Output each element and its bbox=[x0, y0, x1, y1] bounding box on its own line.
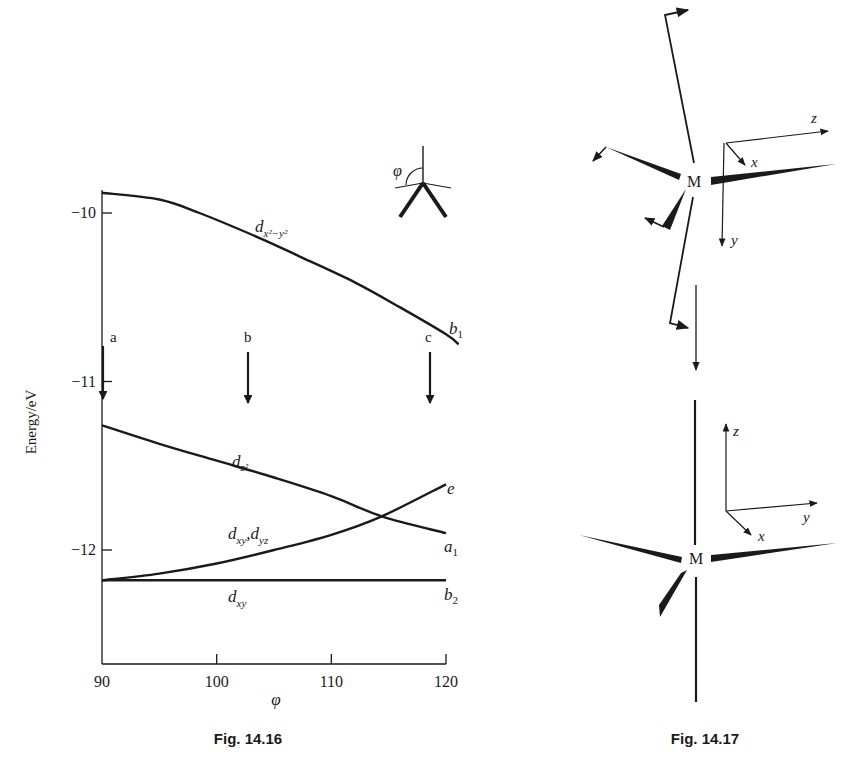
upper-axes bbox=[722, 131, 828, 246]
upper-right-wedge bbox=[711, 164, 836, 185]
label-dxy: dxy bbox=[228, 587, 246, 609]
upper-y-axis-icon bbox=[722, 143, 724, 246]
lower-lower-left-wedge bbox=[659, 570, 687, 617]
lower-metal-label: M bbox=[689, 550, 703, 567]
series-e bbox=[102, 484, 446, 580]
lower-structure: M z y x bbox=[579, 400, 837, 702]
geometry-arrows: a b c bbox=[103, 329, 432, 403]
energy-chart: −10−11−12 90100110120 Energy/eV φ dx²−y²… bbox=[23, 146, 463, 747]
label-dz2: dz² bbox=[232, 452, 249, 473]
y-axis-label: Energy/eV bbox=[23, 389, 39, 454]
upper-z-axis-icon bbox=[726, 131, 828, 143]
label-dxz-dyz: dxy,dyz bbox=[228, 524, 269, 546]
chart-series bbox=[102, 193, 459, 581]
upper-lower-left-arrow-icon bbox=[645, 218, 664, 227]
figure-caption-14-16: Fig. 14.16 bbox=[214, 730, 282, 747]
arrow-label-a: a bbox=[110, 329, 117, 345]
arrow-label-c: c bbox=[425, 329, 432, 345]
upper-left-arrow-icon bbox=[593, 147, 606, 161]
upper-y-label: y bbox=[729, 232, 738, 248]
lower-y-label: y bbox=[801, 509, 810, 525]
y-tick-label: −12 bbox=[71, 541, 96, 558]
upper-metal-label: M bbox=[687, 173, 701, 190]
chart-axes bbox=[102, 190, 446, 664]
y-tick-label: −11 bbox=[72, 373, 96, 390]
inset-phi-label: φ bbox=[393, 162, 402, 180]
upper-structure: M z x y bbox=[593, 10, 836, 328]
end-label-e: e bbox=[447, 479, 455, 498]
inset-geometry-icon: φ bbox=[393, 146, 451, 217]
upper-top-ligand-arrow-icon bbox=[665, 10, 694, 163]
end-label-a1: a1 bbox=[444, 537, 458, 558]
x-tick-label: 110 bbox=[320, 673, 343, 690]
x-tick-label: 120 bbox=[434, 673, 458, 690]
molecular-geometry-diagram: M z x y M z y bbox=[579, 10, 837, 747]
lower-left-wedge bbox=[579, 535, 682, 563]
lower-z-label: z bbox=[732, 423, 739, 439]
series-b1 bbox=[102, 193, 459, 345]
end-label-b2: b2 bbox=[444, 585, 458, 606]
x-ticks: 90100110120 bbox=[94, 654, 458, 690]
end-label-b1: b1 bbox=[449, 319, 463, 340]
y-tick-label: −10 bbox=[71, 204, 96, 221]
arrow-label-b: b bbox=[244, 329, 252, 345]
upper-x-label: x bbox=[750, 154, 758, 170]
lower-x-label: x bbox=[757, 528, 765, 544]
x-axis-label: φ bbox=[271, 690, 280, 709]
figure-canvas: −10−11−12 90100110120 Energy/eV φ dx²−y²… bbox=[0, 0, 865, 772]
x-tick-label: 90 bbox=[94, 673, 110, 690]
upper-z-label: z bbox=[810, 110, 817, 126]
upper-left-wedge bbox=[606, 147, 681, 180]
upper-lower-left-wedge bbox=[662, 189, 686, 230]
lower-x-axis-icon bbox=[726, 511, 751, 535]
lower-right-wedge bbox=[711, 543, 837, 562]
figure-caption-14-17: Fig. 14.17 bbox=[671, 730, 739, 747]
upper-x-axis-icon bbox=[726, 143, 745, 165]
series-a1 bbox=[102, 425, 446, 533]
label-dx2-y2: dx²−y² bbox=[255, 217, 288, 239]
x-tick-label: 100 bbox=[205, 673, 229, 690]
y-ticks: −10−11−12 bbox=[71, 204, 112, 558]
